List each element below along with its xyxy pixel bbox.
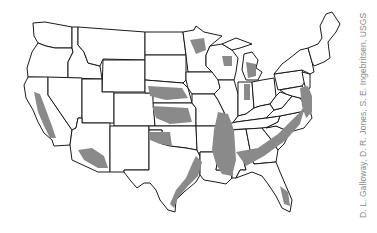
credit-text: D. L. Galloway, D. R. Jones, S. E. Ingeb… [358,13,368,218]
state-new-england [308,12,340,66]
us-map-svg [0,0,377,233]
state-north-dakota [145,32,186,55]
state-new-york [274,48,314,74]
state-new-mexico [110,126,149,172]
state-oregon [27,43,73,78]
state-colorado [114,93,155,126]
shade-illinois [244,84,250,100]
state-wyoming [102,60,145,92]
us-map: D. L. Galloway, D. R. Jones, S. E. Ingeb… [0,0,377,233]
state-south-dakota [145,55,186,83]
